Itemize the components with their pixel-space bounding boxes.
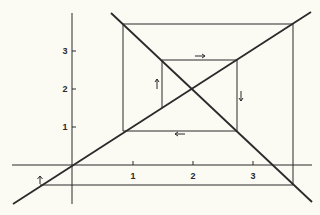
- arrow-down-icon: [239, 91, 243, 101]
- y-tick-label-1: 1: [62, 122, 67, 132]
- decreasing-line: [111, 13, 312, 202]
- x-tick-label-1: 1: [130, 171, 135, 181]
- y-ticks: 3 2 1: [62, 46, 76, 132]
- y-tick-label-2: 2: [62, 84, 67, 94]
- x-tick-label-3: 3: [250, 171, 255, 181]
- arrow-left-icon: [175, 132, 185, 136]
- x-tick-label-2: 2: [190, 171, 195, 181]
- arrow-up-lower-icon: [38, 176, 43, 184]
- cobweb-diagram: 1 2 3 3 2 1: [0, 0, 320, 215]
- arrow-right-icon: [195, 54, 205, 58]
- arrow-up-icon: [155, 79, 159, 89]
- y-tick-label-3: 3: [62, 46, 67, 56]
- x-ticks: 1 2 3: [130, 161, 255, 181]
